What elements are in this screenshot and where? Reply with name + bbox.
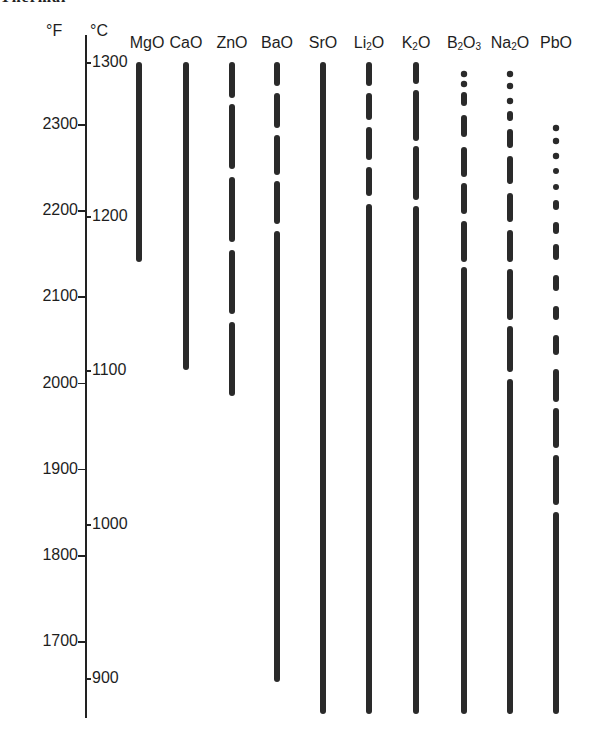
bar-segment: [320, 62, 326, 714]
bar-segment: [413, 146, 419, 200]
range-bars: [0, 0, 597, 734]
bar-segment: [274, 231, 280, 682]
bar-segment: [507, 379, 513, 714]
bar-segment: [507, 269, 513, 320]
bar-segment: [553, 168, 559, 174]
bar-segment: [461, 221, 467, 262]
bar-segment: [507, 230, 513, 262]
bar-segment: [461, 183, 467, 214]
bar-segment: [229, 104, 235, 169]
bar-segment: [413, 90, 419, 141]
bar-segment: [229, 177, 235, 242]
bar-dot: [507, 98, 513, 104]
bar-segment: [366, 204, 372, 714]
bar-segment: [274, 181, 280, 224]
bar-segment: [461, 92, 467, 106]
bar-segment: [366, 93, 372, 120]
bar-segment: [553, 200, 559, 210]
bar-segment: [553, 408, 559, 448]
bar-segment: [553, 275, 559, 291]
bar-segment: [553, 512, 559, 714]
bar-dot: [461, 81, 467, 87]
bar-segment: [553, 335, 559, 355]
bar-segment: [366, 62, 372, 86]
bar-dot: [507, 83, 513, 89]
bar-segment: [183, 62, 189, 370]
bar-segment: [553, 184, 559, 190]
bar-segment: [553, 244, 559, 260]
bar-segment: [229, 250, 235, 314]
bar-segment: [507, 326, 513, 372]
bar-segment: [366, 167, 372, 196]
bar-segment: [274, 62, 280, 86]
bar-segment: [553, 222, 559, 234]
bar-segment: [413, 62, 419, 84]
bar-segment: [507, 129, 513, 148]
bar-segment: [507, 156, 513, 184]
bar-dot: [461, 71, 467, 77]
bar-segment: [136, 62, 142, 262]
bar-segment: [553, 369, 559, 402]
bar-segment: [274, 135, 280, 175]
bar-segment: [413, 206, 419, 714]
bar-dot: [553, 125, 559, 131]
bar-segment: [366, 127, 372, 160]
bar-dot: [507, 71, 513, 77]
bar-segment: [229, 62, 235, 98]
bar-dot: [553, 153, 559, 159]
bar-segment: [507, 111, 513, 121]
bar-segment: [229, 322, 235, 396]
bar-dot: [553, 138, 559, 144]
bar-segment: [461, 115, 467, 137]
bar-segment: [461, 267, 467, 714]
bar-segment: [553, 306, 559, 320]
bar-segment: [274, 93, 280, 128]
bar-segment: [553, 455, 559, 505]
bar-segment: [461, 147, 467, 177]
bar-segment: [507, 193, 513, 222]
